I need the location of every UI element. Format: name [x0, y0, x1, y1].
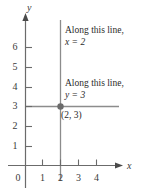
vertical-line-annotation-text: Along this line, [65, 24, 124, 36]
x-axis-label: x [127, 161, 131, 171]
y-tick-label-3: 3 [8, 101, 22, 111]
y-tick-label-4: 4 [8, 82, 22, 92]
horizontal-line-equation: y = 3 [65, 89, 124, 101]
y-tick-label-5: 5 [8, 62, 22, 72]
vertical-line-equation: x = 2 [65, 36, 124, 48]
x-tick-label-3: 3 [72, 173, 86, 183]
y-axis-ticks [26, 48, 33, 147]
y-tick-label-1: 1 [8, 141, 22, 151]
horizontal-line-annotation-text: Along this line, [65, 77, 124, 89]
horizontal-line-annotation: Along this line, y = 3 [65, 77, 124, 101]
intersection-point-marker [57, 103, 63, 109]
intersection-point-label: (2, 3) [61, 110, 82, 120]
y-tick-label-2: 2 [8, 121, 22, 131]
x-tick-label-4: 4 [90, 173, 104, 183]
x-tick-label-2: 2 [54, 173, 68, 183]
y-axis-arrowhead [22, 13, 28, 21]
x-tick-label-0: 0 [11, 173, 25, 183]
x-axis-arrowhead [115, 162, 123, 168]
y-tick-label-6: 6 [8, 42, 22, 52]
x-tick-label-1: 1 [36, 173, 50, 183]
y-axis-label: y [27, 3, 31, 13]
coordinate-plane-figure: y x 6 5 4 3 2 1 0 1 2 3 4 Along this lin… [0, 0, 141, 194]
x-axis-ticks [43, 160, 97, 166]
vertical-line-annotation: Along this line, x = 2 [65, 24, 124, 48]
